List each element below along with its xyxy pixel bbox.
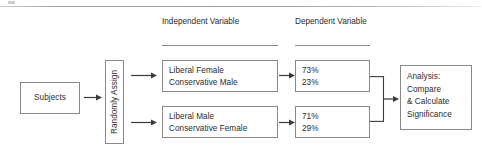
experimental-design-flowchart: Independent Variable Dependent Variable … <box>0 0 482 158</box>
node-outcome-group-1: 73% 23% <box>295 60 370 92</box>
node-subjects-label: Subjects <box>34 92 66 104</box>
scan-speck-artifact <box>8 1 15 4</box>
arrow-randomly-assign-to-treatment-2 <box>131 118 157 127</box>
node-analysis-line-4: Significance <box>407 109 471 122</box>
page-rule-artifact <box>0 6 482 7</box>
node-analysis-line-3: & Calculate <box>407 96 471 109</box>
node-treatment-group-1-line-1: Liberal Female <box>169 65 277 77</box>
node-treatment-group-2-line-2: Conservative Female <box>169 123 277 135</box>
arrow-treatment-2-to-outcome-2 <box>279 118 295 127</box>
node-outcome-group-2: 71% 29% <box>295 106 370 138</box>
header-dependent-line-1: Dependent <box>295 17 335 26</box>
node-outcome-group-1-value-1: 73% <box>302 65 369 77</box>
node-randomly-assign-label: Randomly Assign <box>109 70 121 134</box>
header-independent-line-2: Variable <box>210 17 239 26</box>
header-independent-line-1: Independent <box>162 17 208 26</box>
column-header-dependent-variable: Dependent Variable <box>295 16 367 28</box>
arrow-treatment-1-to-outcome-1 <box>279 71 295 80</box>
node-subjects: Subjects <box>20 82 80 114</box>
node-treatment-group-2: Liberal Male Conservative Female <box>162 106 278 138</box>
header-underline-independent <box>162 45 278 46</box>
header-dependent-line-2: Variable <box>337 17 366 26</box>
node-outcome-group-2-value-1: 71% <box>302 111 369 123</box>
arrow-randomly-assign-to-treatment-1 <box>131 71 157 80</box>
connector-outcomes-to-analysis <box>370 76 400 122</box>
node-analysis: Analysis: Compare & Calculate Significan… <box>400 65 472 130</box>
node-treatment-group-1-line-2: Conservative Male <box>169 77 277 89</box>
node-outcome-group-2-value-2: 29% <box>302 123 369 135</box>
column-header-independent-variable: Independent Variable <box>162 16 239 28</box>
node-treatment-group-2-line-1: Liberal Male <box>169 111 277 123</box>
node-analysis-line-2: Compare <box>407 84 471 97</box>
node-analysis-line-1: Analysis: <box>407 71 471 84</box>
header-underline-dependent <box>295 45 370 46</box>
node-treatment-group-1: Liberal Female Conservative Male <box>162 60 278 92</box>
node-randomly-assign: Randomly Assign <box>105 60 124 144</box>
arrow-subjects-to-randomly-assign <box>84 93 102 102</box>
node-outcome-group-1-value-2: 23% <box>302 77 369 89</box>
